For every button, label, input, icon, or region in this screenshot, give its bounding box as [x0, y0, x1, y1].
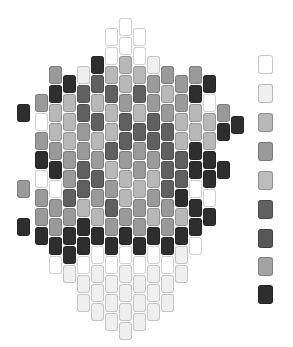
- bead: [91, 113, 104, 131]
- bead: [161, 66, 174, 84]
- legend-swatch: [258, 113, 273, 132]
- bead: [35, 189, 48, 207]
- bead: [133, 142, 146, 160]
- bead: [203, 189, 216, 207]
- bead: [91, 56, 104, 74]
- bead: [105, 275, 118, 293]
- bead: [77, 66, 90, 84]
- bead: [147, 113, 160, 131]
- bead: [147, 303, 160, 321]
- bead: [91, 246, 104, 264]
- bead: [133, 161, 146, 179]
- bead: [203, 113, 216, 131]
- bead: [119, 208, 132, 226]
- bead: [217, 104, 230, 122]
- bead: [49, 142, 62, 160]
- bead: [175, 265, 188, 283]
- color-legend: [258, 0, 274, 347]
- bead: [119, 94, 132, 112]
- bead: [147, 75, 160, 93]
- bead-pattern-grid: [0, 0, 250, 347]
- bead: [35, 208, 48, 226]
- bead: [77, 123, 90, 141]
- bead: [119, 284, 132, 302]
- legend-swatch: [258, 200, 273, 219]
- legend-swatch: [258, 55, 273, 74]
- bead: [161, 180, 174, 198]
- bead: [77, 85, 90, 103]
- bead: [49, 199, 62, 217]
- bead: [133, 275, 146, 293]
- bead: [91, 132, 104, 150]
- bead: [133, 47, 146, 65]
- bead: [49, 66, 62, 84]
- bead: [203, 208, 216, 226]
- bead: [77, 180, 90, 198]
- bead: [119, 322, 132, 340]
- bead: [161, 237, 174, 255]
- bead: [105, 313, 118, 331]
- bead: [91, 151, 104, 169]
- bead: [35, 113, 48, 131]
- bead: [175, 189, 188, 207]
- bead: [133, 104, 146, 122]
- bead: [91, 208, 104, 226]
- legend-swatch: [258, 285, 273, 304]
- bead: [17, 218, 30, 236]
- bead: [203, 94, 216, 112]
- bead: [91, 189, 104, 207]
- bead: [105, 199, 118, 217]
- bead: [175, 94, 188, 112]
- bead: [91, 94, 104, 112]
- bead: [133, 66, 146, 84]
- bead: [189, 237, 202, 255]
- bead: [175, 151, 188, 169]
- bead: [203, 170, 216, 188]
- bead: [77, 142, 90, 160]
- bead: [35, 227, 48, 245]
- bead: [17, 180, 30, 198]
- bead: [91, 303, 104, 321]
- bead: [63, 246, 76, 264]
- bead: [189, 85, 202, 103]
- bead: [133, 237, 146, 255]
- bead: [91, 227, 104, 245]
- bead: [63, 75, 76, 93]
- bead: [119, 132, 132, 150]
- bead: [133, 28, 146, 46]
- bead: [133, 123, 146, 141]
- bead: [49, 104, 62, 122]
- bead: [161, 104, 174, 122]
- bead: [63, 227, 76, 245]
- legend-swatch: [258, 257, 273, 276]
- bead: [77, 199, 90, 217]
- bead: [49, 85, 62, 103]
- bead: [105, 104, 118, 122]
- bead: [119, 37, 132, 55]
- bead: [175, 75, 188, 93]
- bead: [133, 256, 146, 274]
- bead: [161, 275, 174, 293]
- bead: [105, 123, 118, 141]
- bead: [77, 275, 90, 293]
- bead: [63, 94, 76, 112]
- bead: [77, 104, 90, 122]
- bead: [189, 66, 202, 84]
- bead: [91, 284, 104, 302]
- legend-swatch: [258, 142, 273, 161]
- bead: [147, 246, 160, 264]
- bead: [119, 189, 132, 207]
- bead: [189, 199, 202, 217]
- bead: [119, 75, 132, 93]
- bead: [203, 151, 216, 169]
- bead: [119, 246, 132, 264]
- bead: [189, 180, 202, 198]
- bead: [217, 161, 230, 179]
- bead: [77, 161, 90, 179]
- bead: [147, 189, 160, 207]
- bead: [63, 113, 76, 131]
- bead: [175, 208, 188, 226]
- bead: [147, 284, 160, 302]
- bead: [105, 256, 118, 274]
- bead: [231, 116, 244, 134]
